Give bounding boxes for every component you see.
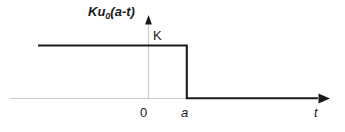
origin-label: 0	[140, 106, 147, 119]
plot-canvas	[0, 0, 345, 132]
step-function-figure: Ku0(a-t) K 0 a t	[0, 0, 345, 132]
y-axis-label-tail: (a-t)	[110, 4, 135, 19]
step-function-curve	[38, 46, 318, 99]
y-axis-label: Ku0(a-t)	[88, 5, 135, 21]
x-axis-arrowhead	[319, 94, 331, 104]
x-axis-label-t: t	[314, 106, 318, 119]
y-axis-label-main: Ku	[88, 4, 105, 19]
amplitude-label-k: K	[153, 29, 162, 42]
y-axis-arrowhead	[145, 15, 152, 25]
step-point-label-a: a	[181, 106, 188, 119]
